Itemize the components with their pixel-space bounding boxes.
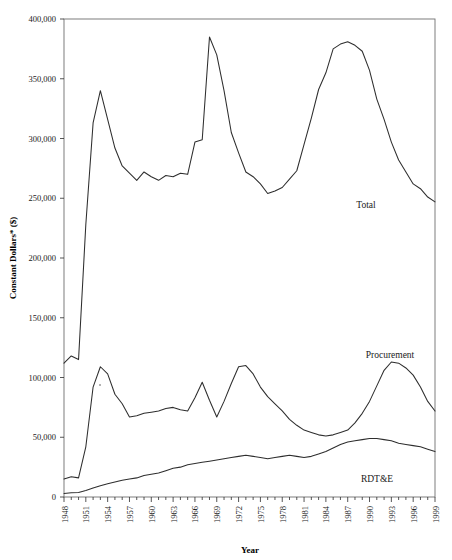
series-line-rdte: [64, 438, 435, 493]
series-label-rdte: RDT&E: [361, 474, 393, 484]
y-tick-label: 250,000: [28, 193, 56, 203]
x-tick-label: 1960: [147, 506, 157, 523]
y-tick-label: 50,000: [33, 432, 56, 442]
x-tick-label: 1996: [409, 506, 419, 523]
x-tick-label: 1999: [431, 506, 441, 523]
series-label-total: Total: [356, 200, 376, 210]
x-tick-label: 1981: [300, 506, 310, 523]
x-tick-label: 1978: [278, 506, 288, 523]
y-tick-label: 200,000: [28, 253, 56, 263]
x-tick-label: 1957: [125, 506, 135, 523]
y-axis-tick-labels: 050,000100,000150,000200,000250,000300,0…: [28, 14, 56, 502]
x-tick-label: 1966: [190, 506, 200, 523]
x-tick-label: 1984: [321, 505, 331, 523]
x-tick-label: 1948: [60, 506, 70, 523]
defense-budget-line-chart: 050,000100,000150,000200,000250,000300,0…: [0, 0, 452, 560]
series-line-total: [64, 37, 435, 363]
x-tick-label: 1954: [103, 505, 113, 523]
x-tick-label: 1987: [343, 506, 353, 523]
y-tick-label: 300,000: [28, 134, 56, 144]
x-axis-tick-labels: 1948195119541957196019631966196919721975…: [60, 505, 441, 523]
y-tick-label: 150,000: [28, 313, 56, 323]
y-tick-label: 400,000: [28, 14, 56, 24]
x-axis-ticks: [64, 497, 435, 502]
x-tick-label: 1975: [256, 506, 266, 523]
x-tick-label: 1990: [365, 506, 375, 523]
x-tick-label: 1972: [234, 506, 244, 523]
series-label-procurement: Procurement: [366, 350, 415, 360]
print-speck: [99, 384, 101, 386]
x-tick-label: 1993: [387, 506, 397, 523]
y-axis-title: Constant Dollars* ($): [8, 217, 18, 300]
x-tick-label: 1963: [169, 506, 179, 523]
x-axis-title: Year: [241, 545, 259, 555]
plot-frame: [64, 19, 435, 497]
chart-container: 050,000100,000150,000200,000250,000300,0…: [0, 0, 452, 560]
data-series-lines: [64, 37, 435, 493]
y-axis-ticks: [60, 19, 64, 497]
series-line-procurement: [64, 362, 435, 479]
y-tick-label: 0: [52, 492, 56, 502]
y-tick-label: 100,000: [28, 373, 56, 383]
x-tick-label: 1969: [212, 506, 222, 523]
x-tick-label: 1951: [81, 506, 91, 523]
y-tick-label: 350,000: [28, 74, 56, 84]
